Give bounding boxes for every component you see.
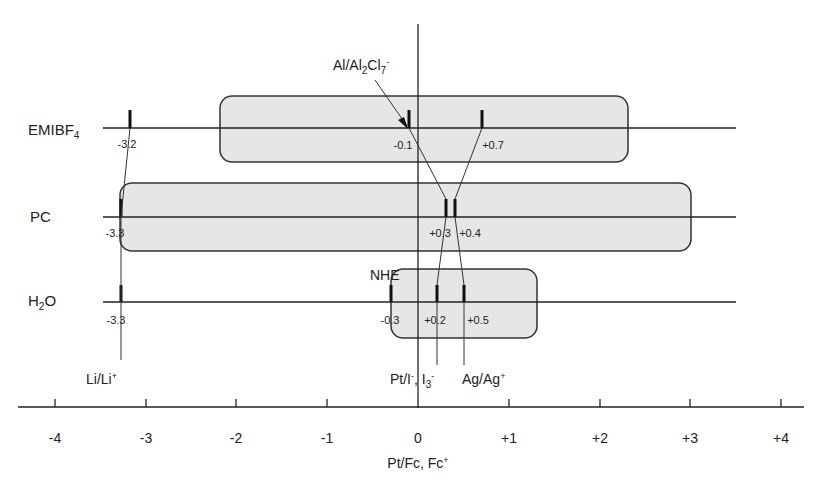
- svg-text:-2: -2: [230, 430, 243, 446]
- svg-text:-0.1: -0.1: [394, 139, 413, 151]
- x-axis-label: Pt/Fc, Fc+: [387, 455, 448, 471]
- svg-text:-3.3: -3.3: [106, 227, 125, 239]
- svg-text:+0.2: +0.2: [424, 314, 446, 326]
- svg-text:0: 0: [414, 430, 422, 446]
- svg-text:-4: -4: [49, 430, 62, 446]
- svg-text:-0.3: -0.3: [381, 314, 400, 326]
- svg-text:+0.7: +0.7: [482, 139, 504, 151]
- couple-label-ag: Ag/Ag+: [462, 371, 505, 387]
- solvent-label-pc: PC: [30, 208, 51, 225]
- solvent-label-emibf4: EMIBF4: [28, 121, 80, 141]
- emibf4-window-box: [220, 96, 628, 162]
- svg-text:-3.3: -3.3: [107, 314, 126, 326]
- svg-text:+0.3: +0.3: [429, 227, 451, 239]
- svg-text:+3: +3: [682, 430, 698, 446]
- svg-text:+0.4: +0.4: [459, 227, 481, 239]
- svg-text:-3: -3: [140, 430, 153, 446]
- svg-text:-1: -1: [321, 430, 334, 446]
- couple-label-pt-iodide: Pt/I-, I3-: [390, 371, 434, 390]
- couple-label-li: Li/Li+: [86, 371, 117, 387]
- svg-text:+0.5: +0.5: [467, 314, 489, 326]
- redox-potential-diagram: -4 -3 -2 -1 0 +1 +2 +3 +4 Pt/Fc, Fc+ EMI…: [0, 0, 837, 497]
- x-axis-tick-labels: -4 -3 -2 -1 0 +1 +2 +3 +4: [49, 430, 789, 446]
- svg-text:+4: +4: [773, 430, 789, 446]
- svg-text:-3.2: -3.2: [118, 138, 137, 150]
- solvent-label-h2o: H2O: [28, 292, 56, 312]
- nhe-label: NHE: [370, 267, 400, 283]
- svg-text:+2: +2: [592, 430, 608, 446]
- svg-text:+1: +1: [501, 430, 517, 446]
- couple-label-al: Al/Al2Cl7-: [333, 57, 389, 76]
